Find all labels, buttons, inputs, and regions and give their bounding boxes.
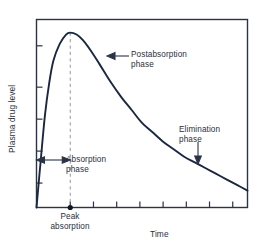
y-axis-label: Plasma drug level xyxy=(8,69,18,169)
figure-container: Postabsorption phase Absorption phase El… xyxy=(0,0,258,249)
annotation-absorption-phase: Absorption phase xyxy=(66,155,106,174)
annotation-peak-line2: absorption xyxy=(41,222,99,232)
x-axis-label: Time xyxy=(150,230,169,240)
annotation-elimination-line1: Elimination xyxy=(179,125,220,134)
plot-frame xyxy=(37,20,248,208)
annotation-postabsorption-phase: Postabsorption phase xyxy=(131,50,187,69)
peak-absorption-dot xyxy=(68,205,73,210)
annotation-peak-absorption: Peak absorption xyxy=(41,212,99,231)
annotation-elimination-phase: Elimination phase xyxy=(179,125,220,144)
annotation-peak-line1: Peak xyxy=(60,212,79,221)
annotation-postabsorption-line1: Postabsorption xyxy=(131,50,187,59)
annotation-absorption-line2: phase xyxy=(66,165,106,175)
annotation-absorption-line1: Absorption xyxy=(66,155,106,164)
annotation-postabsorption-line2: phase xyxy=(131,60,187,70)
annotation-elimination-line2: phase xyxy=(179,135,220,145)
